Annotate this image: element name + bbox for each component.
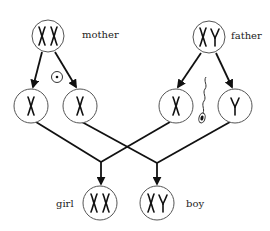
girl-cell bbox=[83, 186, 117, 220]
sperm-cell-icon bbox=[198, 77, 206, 124]
mother-label: mother bbox=[82, 29, 119, 40]
mother-gamete-2 bbox=[63, 89, 97, 123]
mother-cell bbox=[32, 20, 64, 52]
mother-gamete-1 bbox=[14, 89, 48, 123]
arrow-father-to-gamete-1 bbox=[178, 53, 201, 87]
father-label: father bbox=[231, 30, 262, 41]
boy-cell bbox=[140, 186, 174, 220]
line-father-gamete-2-to-boy bbox=[157, 122, 230, 163]
inheritance-diagram: mother father girl bbox=[0, 0, 270, 231]
arrow-father-to-gamete-2 bbox=[216, 53, 232, 87]
father-cell bbox=[193, 21, 225, 53]
boy-label: boy bbox=[186, 198, 204, 209]
father-gamete-2 bbox=[218, 89, 252, 123]
egg-cell-icon bbox=[52, 72, 63, 83]
father-gamete-1 bbox=[159, 89, 193, 123]
arrow-mother-to-gamete-1 bbox=[33, 52, 42, 87]
line-father-gamete-1-to-girl bbox=[101, 122, 170, 162]
girl-label: girl bbox=[56, 198, 74, 209]
